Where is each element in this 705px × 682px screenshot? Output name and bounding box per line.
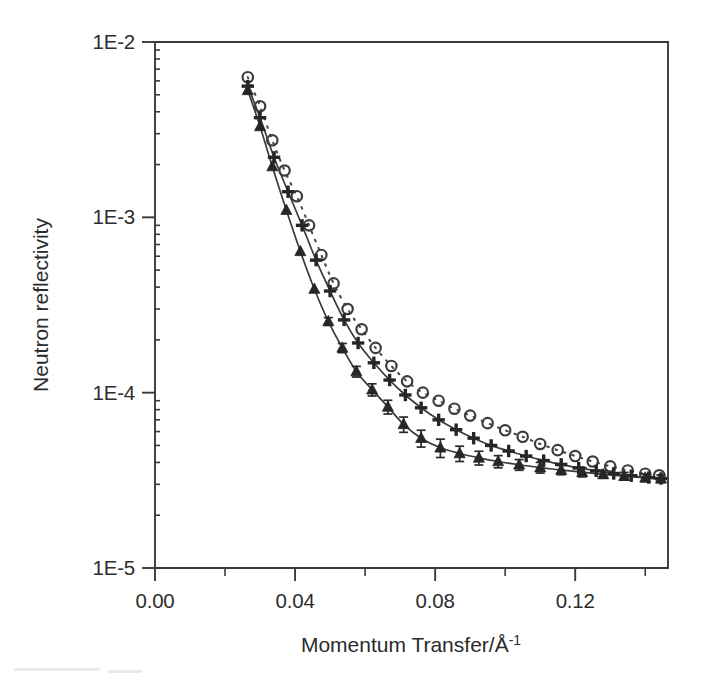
x-tick-label-0.00: 0.00 (135, 589, 174, 612)
y-tick-group (142, 42, 160, 568)
marker-plus (338, 314, 350, 326)
x-tick-label-0.04: 0.04 (276, 589, 315, 612)
fit-curve-plus-markers (248, 86, 661, 478)
marker-plus (324, 285, 336, 297)
y-axis-title: Neutron reflectivity (29, 218, 52, 392)
scan-artifact (14, 668, 142, 673)
marker-filled-triangle (255, 120, 266, 130)
marker-open-circle (342, 304, 352, 314)
marker-filled-triangle (295, 245, 306, 255)
marker-open-circle (386, 361, 396, 371)
y-tick-label-group: 1E-21E-31E-41E-5 (92, 30, 135, 579)
marker-open-circle (279, 165, 289, 175)
neutron-reflectivity-chart: 1E-21E-31E-41E-5 0.000.040.080.12 Moment… (0, 0, 705, 682)
marker-plus (268, 151, 280, 163)
marker-open-circle (465, 410, 475, 420)
marker-plus (432, 414, 444, 426)
y-tick-label-1E-4: 1E-4 (92, 381, 135, 404)
marker-open-circle (356, 324, 366, 334)
x-tick-label-0.12: 0.12 (556, 589, 595, 612)
marker-filled-triangle (416, 432, 427, 442)
fit-curve-filled-triangles (248, 90, 661, 478)
marker-open-circle (449, 404, 459, 414)
fit-curves-group (248, 77, 661, 479)
marker-open-circle (418, 387, 428, 397)
x-axis-title: Momentum Transfer/Å-1 (301, 632, 521, 656)
marker-open-circle (402, 376, 412, 386)
marker-plus (485, 439, 497, 451)
x-axis-title-superscript: -1 (509, 632, 522, 648)
figure-root: 1E-21E-31E-41E-5 0.000.040.080.12 Moment… (0, 0, 705, 682)
marker-plus (467, 432, 479, 444)
marker-plus (310, 254, 322, 266)
x-tick-label-group: 0.000.040.080.12 (135, 589, 594, 612)
marker-plus (352, 337, 364, 349)
y-tick-label-1E-5: 1E-5 (92, 556, 135, 579)
plot-frame (155, 42, 668, 568)
x-axis-title-base: Momentum Transfer/Å (301, 633, 509, 656)
x-tick-group (155, 568, 645, 581)
marker-open-circle (482, 418, 492, 428)
marker-filled-triangle (281, 204, 292, 214)
y-tick-label-1E-3: 1E-3 (92, 205, 135, 228)
marker-plus (450, 423, 462, 435)
data-markers-group (242, 72, 668, 485)
marker-plus (502, 445, 514, 457)
marker-filled-triangle (309, 283, 320, 293)
marker-open-circle (433, 395, 443, 405)
marker-plus (608, 467, 620, 479)
x-tick-label-0.08: 0.08 (416, 589, 455, 612)
marker-open-circle (500, 425, 510, 435)
marker-open-circle (570, 451, 580, 461)
y-tick-label-1E-2: 1E-2 (92, 30, 135, 53)
